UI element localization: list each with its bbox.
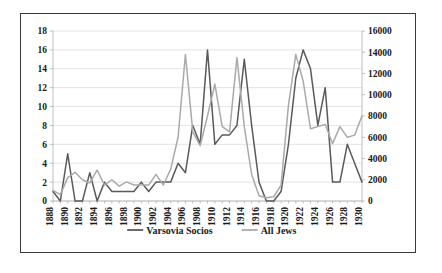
right-axis-tick-label: 12000 [368,69,392,79]
x-axis-tick-label: 1906 [177,207,187,226]
x-axis-tick-label: 1930 [354,207,364,226]
x-axis-tick-label: 1928 [339,207,349,226]
series-line-2 [53,54,362,197]
right-axis-tick-label: 8000 [368,111,387,121]
x-axis-tick-label: 1922 [295,207,305,226]
x-axis-labels-group: 1888189018921894189618981900190219041906… [45,207,364,226]
line-chart: 024681012141618 020004000600080001000012… [21,14,417,254]
left-axis-tick-label: 12 [38,83,48,93]
left-axis-tick-label: 18 [38,26,48,36]
chart-legend: Varsovia SociosAll Jews [127,225,296,236]
x-axis-tick-label: 1918 [266,207,276,226]
left-axis-tick-label: 10 [38,102,48,112]
x-axis-tick-label: 1898 [119,207,129,226]
left-axis-tick-label: 6 [42,140,47,150]
right-axis-tick-label: 14000 [368,48,392,58]
chart-frame: 024681012141618 020004000600080001000012… [20,13,416,253]
x-axis-tick-label: 1900 [133,207,143,226]
x-axis-tick-label: 1926 [325,207,335,226]
legend-label: All Jews [261,225,297,236]
x-axis-tick-label: 1892 [74,207,84,226]
x-axis-tick-label: 1904 [163,207,173,226]
left-axis-tick-label: 2 [42,178,47,188]
x-axis-tick-label: 1894 [89,207,99,226]
left-axis-tick-label: 4 [42,159,47,169]
left-axis-tick-label: 0 [42,196,47,206]
x-axis-tick-label: 1912 [222,207,232,226]
left-axis-tick-label: 14 [38,64,48,74]
x-axis-tick-label: 1890 [60,207,70,226]
x-axis-tick-label: 1924 [310,207,320,226]
legend-label: Varsovia Socios [146,225,213,236]
x-axis-tick-label: 1920 [280,207,290,226]
left-axis-tick-label: 16 [38,45,48,55]
x-axis-tick-label: 1908 [192,207,202,226]
x-axis-tick-label: 1896 [104,207,114,226]
right-axis-tick-label: 10000 [368,90,392,100]
right-axis-tick-label: 4000 [368,154,387,164]
x-axis-tick-label: 1914 [236,207,246,226]
right-axis-tick-label: 2000 [368,175,387,185]
x-axis-tick-label: 1888 [45,207,55,226]
x-axis-tick-label: 1910 [207,207,217,226]
right-axis-labels-group: 0200040006000800010000120001400016000 [368,26,392,206]
x-axis-tick-label: 1902 [148,207,158,226]
left-axis-tick-label: 8 [42,121,47,131]
right-axis-tick-label: 0 [368,196,373,206]
chart-plot-area: 024681012141618 020004000600080001000012… [21,14,417,254]
right-axis-tick-label: 16000 [368,26,392,36]
left-axis-labels-group: 024681012141618 [38,26,48,206]
x-axis-tick-label: 1916 [251,207,261,226]
right-axis-tick-label: 6000 [368,133,387,143]
